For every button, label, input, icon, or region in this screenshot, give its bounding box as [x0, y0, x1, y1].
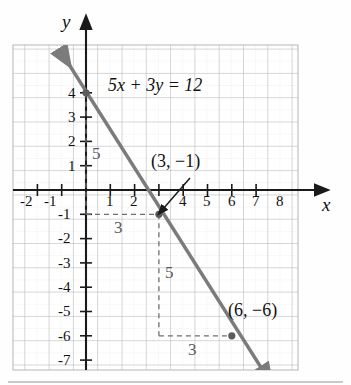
point-label-3-neg1: (3, −1): [151, 152, 200, 170]
y-tick-label-2: 2: [68, 134, 76, 149]
x-axis-label: x: [322, 195, 330, 214]
page-rule-divider: [8, 381, 343, 383]
y-tick-label-neg2: -2: [58, 231, 71, 246]
equation-label: 5x + 3y = 12: [108, 76, 202, 94]
point-label-6-neg6: (6, −6): [228, 301, 277, 319]
x-tick-label-8: 8: [276, 194, 284, 209]
x-tick-label-6: 6: [228, 194, 236, 209]
point-0-4: [82, 89, 89, 96]
y-tick-label-neg4: -4: [58, 280, 71, 295]
x-tick-label-2: 2: [130, 194, 138, 209]
point-3-neg1: [155, 211, 162, 218]
x-tick-label-neg2: -2: [20, 194, 33, 209]
y-tick-label-4: 4: [68, 86, 76, 101]
y-tick-label-neg6: -6: [58, 329, 71, 344]
x-tick-label-7: 7: [252, 194, 260, 209]
y-axis-label: y: [62, 12, 70, 31]
y-tick-label-neg1: -1: [58, 207, 71, 222]
y-tick-label-neg7: -7: [58, 353, 71, 368]
x-tick-label-1: 1: [106, 194, 114, 209]
rise-label-lower: 5: [165, 264, 174, 281]
run-label-lower: 3: [188, 341, 197, 358]
x-tick-label-5: 5: [203, 194, 211, 209]
run-label-upper: 3: [114, 219, 123, 236]
y-tick-label-3: 3: [68, 110, 76, 125]
y-tick-label-neg3: -3: [58, 256, 71, 271]
graph-figure: y x 5x + 3y = 12 -2 -1 1 2 4 5 6 7 8 4 3…: [0, 0, 351, 385]
x-tick-label-neg1: -1: [44, 194, 57, 209]
point-6-neg6: [228, 332, 235, 339]
rise-label-upper: 5: [92, 145, 101, 162]
y-tick-label-1: 1: [68, 159, 76, 174]
x-tick-label-4: 4: [179, 194, 187, 209]
y-tick-label-neg5: -5: [58, 304, 71, 319]
